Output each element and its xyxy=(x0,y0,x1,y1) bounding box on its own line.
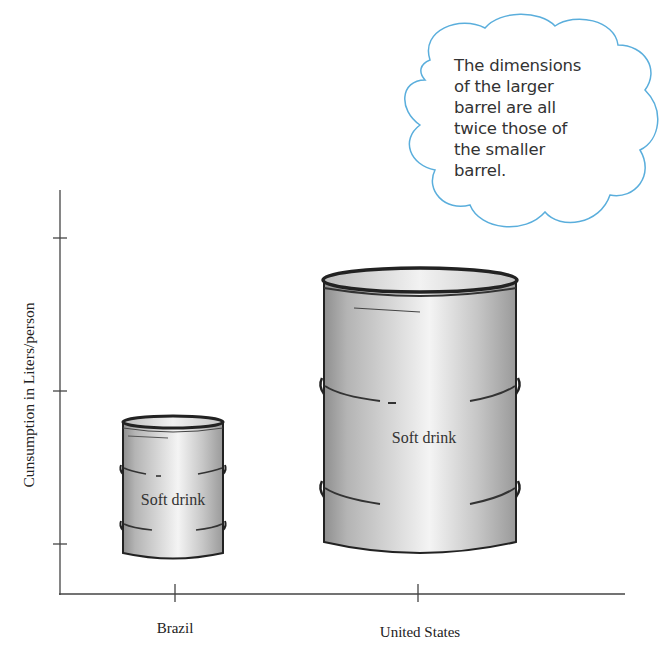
callout-line: of the larger xyxy=(454,76,654,97)
callout-line: the smaller xyxy=(454,139,654,160)
callout-text: The dimensions of the larger barrel are … xyxy=(454,55,654,181)
y-axis-label: Cunsumption in Liters/person xyxy=(20,302,38,487)
y-axis xyxy=(53,190,67,595)
barrel-label-brazil: Soft drink xyxy=(141,491,205,509)
callout-line: barrel. xyxy=(454,160,654,181)
callout-line: barrel are all xyxy=(454,97,654,118)
barrel-brazil xyxy=(120,416,225,559)
x-axis xyxy=(59,584,625,602)
barrel-label-united-states: Soft drink xyxy=(392,429,456,447)
callout-line: The dimensions xyxy=(454,55,654,76)
x-label-united-states: United States xyxy=(380,624,460,641)
callout-line: twice those of xyxy=(454,118,654,139)
x-label-brazil: Brazil xyxy=(157,620,194,637)
barrel-united-states xyxy=(320,268,519,553)
